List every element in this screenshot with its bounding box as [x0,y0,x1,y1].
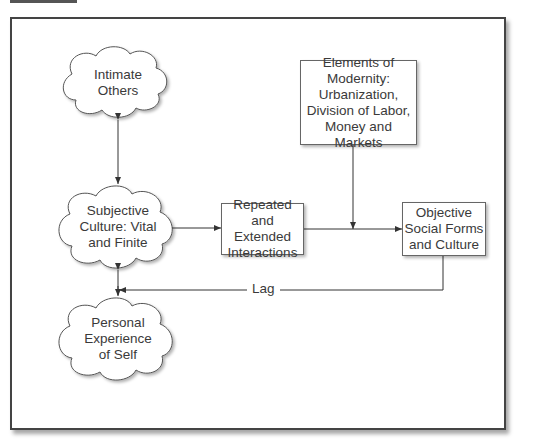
box-objective-social-forms: Objective Social Forms and Culture [402,202,486,256]
label-line: Interactions [222,245,303,261]
label-line: Intimate [94,67,142,83]
label-line: of Self [84,347,152,363]
label-line: Experience [84,331,152,347]
label-line: Repeated [222,197,303,213]
label-line: Urbanization, [301,87,416,103]
label-line: Elements of [301,55,416,71]
label-line: Others [94,83,142,99]
label-subjective-culture: Subjective Culture: Vital and Finite [68,202,168,252]
label-line: Social Forms [405,221,484,237]
label-line: Modernity: [301,71,416,87]
box-repeated-interactions: Repeated and Extended Interactions [221,203,304,255]
label-line: Subjective [79,203,156,219]
label-intimate-others: Intimate Others [78,66,158,100]
label-line: Money and Markets [301,119,416,151]
label-line: Culture: Vital [79,219,156,235]
label-line: Personal [84,315,152,331]
box-elements-of-modernity: Elements of Modernity: Urbanization, Div… [300,60,417,145]
label-line: Division of Labor, [301,103,416,119]
label-line: and Finite [79,235,156,251]
label-personal-experience: Personal Experience of Self [68,314,168,364]
label-line: Objective [405,205,484,221]
label-line: and Extended [222,213,303,245]
label-line: and Culture [405,237,484,253]
edge-lag [119,256,443,290]
label-lag: Lag [247,281,280,296]
